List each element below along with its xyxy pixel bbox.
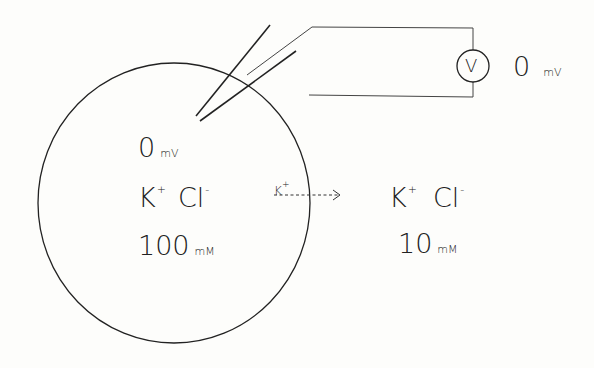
cell-ion-cl: Cl xyxy=(178,182,204,213)
outside-concentration: 10mM xyxy=(398,230,458,257)
flux-label: K+ xyxy=(274,180,289,197)
electrode-inner-wall xyxy=(200,51,296,121)
outside-concentration-unit: mM xyxy=(437,243,457,256)
cell-concentration-unit: mM xyxy=(195,245,215,258)
cell-ion-k-charge: + xyxy=(157,183,166,196)
reference-wire xyxy=(309,82,473,97)
voltmeter-symbol: V xyxy=(465,57,477,75)
cell-ions: K+Cl- xyxy=(138,184,209,211)
cell-concentration-value: 100 xyxy=(138,230,190,261)
electrode-outer-wall xyxy=(196,25,270,116)
voltmeter-reading-unit: mV xyxy=(543,66,561,79)
top-wire xyxy=(312,27,473,50)
cell-potential-unit: mV xyxy=(160,147,178,160)
diagram-lines xyxy=(0,0,594,368)
outside-ions: K+Cl- xyxy=(389,184,464,211)
membrane-potential-diagram: V 0mV 0mV K+Cl- 100mM K+ K+Cl- 10mM xyxy=(0,0,594,368)
outside-ion-k: K xyxy=(389,182,407,213)
cell-ion-cl-charge: - xyxy=(205,183,209,196)
voltmeter-reading-value: 0 xyxy=(513,51,530,82)
outside-concentration-value: 10 xyxy=(398,228,432,259)
outside-ion-cl: Cl xyxy=(433,182,459,213)
cell-concentration: 100mM xyxy=(138,232,215,259)
cell-potential: 0mV xyxy=(138,134,178,161)
cell-ion-k: K xyxy=(138,182,156,213)
cell-potential-value: 0 xyxy=(138,132,155,163)
voltmeter-reading: 0mV xyxy=(513,53,561,80)
flux-ion-charge: + xyxy=(282,179,290,189)
outside-ion-k-charge: + xyxy=(408,183,417,196)
electrode-wire xyxy=(247,27,312,75)
flux-ion: K xyxy=(274,184,282,198)
outside-ion-cl-charge: - xyxy=(460,183,464,196)
